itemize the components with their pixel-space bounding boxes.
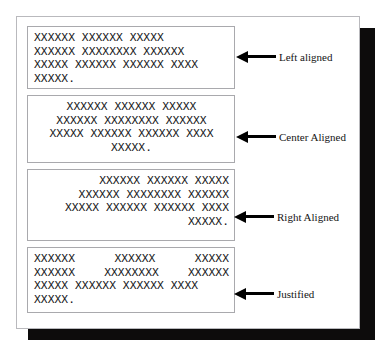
paragraph-word: XXXXXX <box>114 252 155 266</box>
callout-left-aligned: Left aligned <box>236 49 332 65</box>
paragraph-line: XXXXX XXXXXX XXXXXX XXXX <box>34 201 229 215</box>
paragraph-line: XXXXX. <box>34 215 229 229</box>
paragraph-line: XXXXX XXXXXX XXXXXX XXXX <box>34 279 229 293</box>
callout-justified: Justified <box>234 286 314 302</box>
text-box-right-aligned[interactable]: XXXXXX XXXXXX XXXXX XXXXXX XXXXXXXX XXXX… <box>27 169 235 241</box>
paragraph-word: XXXXXX <box>34 252 75 266</box>
callout-label: Left aligned <box>279 51 332 63</box>
text-box-left-aligned[interactable]: XXXXXX XXXXXX XXXXX XXXXXX XXXXXXXX XXXX… <box>27 26 235 89</box>
paragraph-line: XXXXXXXXXXXXXXXXX <box>34 252 229 266</box>
callout-label: Center Aligned <box>279 131 346 143</box>
arrow-left-icon <box>236 131 276 143</box>
paragraph-line: XXXXXX XXXXXXXX XXXXXX <box>34 114 229 128</box>
paragraph-word: XXXXXX <box>188 266 229 280</box>
callout-center-aligned: Center Aligned <box>236 129 346 145</box>
paragraph-word: XXXXXXXX <box>104 266 159 280</box>
callout-label: Justified <box>277 288 314 300</box>
paragraph-word: XXXXXX <box>34 266 75 280</box>
paragraph-line: XXXXXX XXXXXX XXXXX <box>34 31 229 45</box>
document-page: XXXXXX XXXXXX XXXXX XXXXXX XXXXXXXX XXXX… <box>16 16 360 329</box>
paragraph-line: XXXXX. <box>34 293 229 307</box>
paragraph-line: XXXXX XXXXXX XXXXXX XXXX <box>34 127 229 141</box>
paragraph-line: XXXXX XXXXXX XXXXXX XXXX <box>34 58 229 72</box>
callout-label: Right Aligned <box>277 211 339 223</box>
arrow-left-icon <box>234 211 274 223</box>
illustration-canvas: XXXXXX XXXXXX XXXXX XXXXXX XXXXXXXX XXXX… <box>0 0 383 359</box>
paragraph-line: XXXXX. <box>34 72 229 86</box>
callout-right-aligned: Right Aligned <box>234 209 339 225</box>
arrow-left-icon <box>234 288 274 300</box>
paragraph-line: XXXXXXXXXXXXXXXXXXXX <box>34 266 229 280</box>
arrow-left-icon <box>236 51 276 63</box>
paragraph-line: XXXXXX XXXXXXXX XXXXXX <box>34 188 229 202</box>
text-box-justified[interactable]: XXXXXXXXXXXXXXXXX XXXXXXXXXXXXXXXXXXXX X… <box>27 247 235 313</box>
paragraph-line: XXXXXX XXXXXXXX XXXXXX <box>34 45 229 59</box>
text-box-center-aligned[interactable]: XXXXXX XXXXXX XXXXX XXXXXX XXXXXXXX XXXX… <box>27 95 235 163</box>
paragraph-line: XXXXX. <box>34 141 229 155</box>
paragraph-line: XXXXXX XXXXXX XXXXX <box>34 100 229 114</box>
paragraph-line: XXXXXX XXXXXX XXXXX <box>34 174 229 188</box>
paragraph-word: XXXXX <box>195 252 229 266</box>
